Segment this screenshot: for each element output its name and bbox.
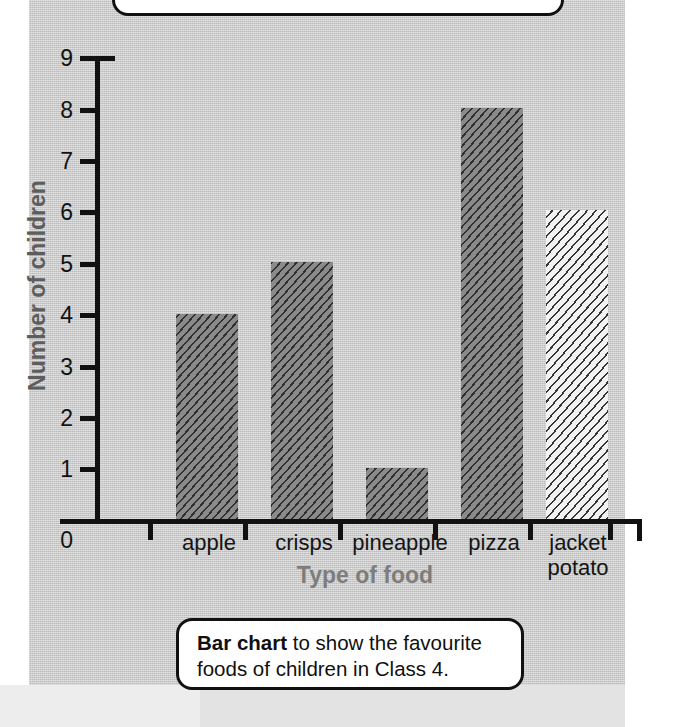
y-tick-1 [80,467,98,472]
y-tick-6 [80,210,98,215]
caption-rest: to show the favourite [287,631,482,654]
bar-crisps[interactable] [271,262,333,519]
y-tick-7 [80,159,98,164]
caption-bold-lead: Bar chart [197,631,287,654]
y-tick-5 [80,262,98,267]
y-tick-label-8: 8 [45,97,73,124]
y-tick-4 [80,313,98,318]
y-tick-2 [80,416,98,421]
chart-caption-text: Bar chart to show the favourite foods of… [197,630,505,682]
y-tick-label-0: 0 [45,527,73,554]
x-axis-title: Type of food [255,562,475,589]
y-tick-label-7: 7 [45,148,73,175]
y-tick-8 [80,108,98,113]
y-axis-line [95,56,100,524]
chart-caption-box: Bar chart to show the favourite foods of… [176,618,524,690]
bar-pizza[interactable] [461,108,523,519]
x-axis-end-cap [637,519,642,541]
x-label-jacket-potato: jacket potato [520,530,636,580]
y-axis-top-cap [95,56,115,61]
bar-jacket-potato[interactable] [546,210,608,519]
caption-line-2: foods of children in Class 4. [197,657,449,680]
worksheet-page: 9 8 7 6 5 4 3 2 1 0 apple crisps pineapp… [0,0,675,727]
y-tick-label-2: 2 [45,405,73,432]
y-tick-3 [80,365,98,370]
y-tick-9 [80,56,98,61]
y-tick-label-9: 9 [45,45,73,72]
y-tick-label-1: 1 [45,456,73,483]
bar-apple[interactable] [176,314,238,519]
bar-pineapple[interactable] [366,468,428,519]
y-axis-title: Number of children [24,176,51,396]
